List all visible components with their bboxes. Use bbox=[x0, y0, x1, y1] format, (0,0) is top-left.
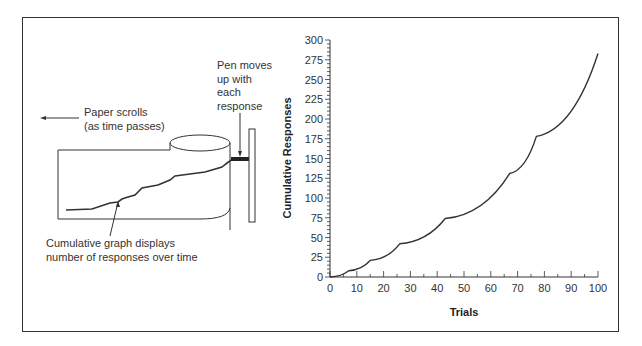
x-axis-title: Trials bbox=[450, 306, 479, 318]
y-tick-label: 100 bbox=[305, 192, 323, 204]
y-tick-label: 50 bbox=[311, 232, 323, 244]
x-tick-label: 70 bbox=[511, 282, 523, 294]
y-tick-label: 225 bbox=[305, 93, 323, 105]
y-tick-label: 25 bbox=[311, 251, 323, 263]
pen bbox=[231, 157, 249, 161]
x-tick-label: 10 bbox=[351, 282, 363, 294]
paper-scrolls-label: Paper scrolls (as time passes) bbox=[84, 106, 165, 133]
paper-cumulative-trace bbox=[66, 159, 233, 210]
y-tick-label: 75 bbox=[311, 212, 323, 224]
x-tick-label: 40 bbox=[431, 282, 443, 294]
y-tick-label: 250 bbox=[305, 74, 323, 86]
left-arrow-icon bbox=[40, 116, 79, 120]
x-tick-label: 20 bbox=[377, 282, 389, 294]
y-tick-label: 200 bbox=[305, 113, 323, 125]
x-axis-ticks: 0102030405060708090100 bbox=[327, 271, 607, 294]
cumulative-chart: 0255075100125150175200225250275300 01020… bbox=[281, 34, 607, 318]
y-tick-label: 175 bbox=[305, 133, 323, 145]
pen-rail bbox=[249, 129, 255, 222]
y-tick-label: 125 bbox=[305, 172, 323, 184]
x-tick-label: 80 bbox=[538, 282, 550, 294]
x-tick-label: 0 bbox=[327, 282, 333, 294]
down-arrow-icon bbox=[238, 113, 242, 157]
y-tick-label: 0 bbox=[317, 271, 323, 283]
x-tick-label: 60 bbox=[485, 282, 497, 294]
cumulative-graph-label: Cumulative graph displays number of resp… bbox=[46, 237, 198, 264]
pen-label: Pen moves up with each response bbox=[217, 59, 272, 113]
y-tick-label: 275 bbox=[305, 54, 323, 66]
x-tick-label: 30 bbox=[404, 282, 416, 294]
y-tick-label: 300 bbox=[305, 34, 323, 46]
x-tick-label: 100 bbox=[589, 282, 607, 294]
y-axis-ticks: 0255075100125150175200225250275300 bbox=[305, 34, 330, 283]
cumulative-recorder-illustration: 0255075100125150175200225250275300 01020… bbox=[0, 0, 642, 346]
x-tick-label: 90 bbox=[565, 282, 577, 294]
y-tick-label: 150 bbox=[305, 153, 323, 165]
drum-top bbox=[170, 135, 230, 151]
cumulative-curve bbox=[330, 53, 598, 277]
x-tick-label: 50 bbox=[458, 282, 470, 294]
y-axis-title: Cumulative Responses bbox=[281, 97, 293, 218]
